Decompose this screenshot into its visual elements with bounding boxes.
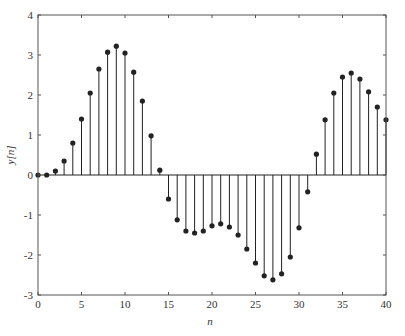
y-axis-ticks: -3-2-101234 [24, 9, 386, 301]
stem-marker [236, 232, 241, 237]
stem-marker [53, 168, 58, 173]
stem-marker [62, 158, 67, 163]
stem-marker [349, 70, 354, 75]
stem-marker [375, 104, 380, 109]
stem-marker [131, 70, 136, 75]
stem-marker [96, 66, 101, 71]
stem-marker [79, 116, 84, 121]
stem-marker [279, 271, 284, 276]
x-axis-ticks: 0510152025303540 [35, 15, 392, 310]
y-axis-label: y[n] [4, 146, 16, 166]
stem-marker [253, 260, 258, 265]
x-tick-label: 0 [35, 298, 41, 310]
stem-marker [183, 228, 188, 233]
stem-marker [201, 228, 206, 233]
x-tick-label: 5 [79, 298, 85, 310]
stem-marker [331, 90, 336, 95]
stem-marker [366, 89, 371, 94]
stem-marker [140, 98, 145, 103]
stem-marker [166, 196, 171, 201]
stem-marker [270, 277, 275, 282]
x-tick-label: 10 [120, 298, 132, 310]
stem-marker [244, 246, 249, 251]
stem-marker [296, 225, 301, 230]
stem-marker [218, 221, 223, 226]
stem-marker [357, 76, 362, 81]
stem-marker [149, 133, 154, 138]
stem-marker [314, 152, 319, 157]
stem-marker [175, 217, 180, 222]
stem-marker [340, 74, 345, 79]
x-tick-label: 20 [207, 298, 219, 310]
stem-series [35, 44, 388, 283]
stem-marker [323, 117, 328, 122]
x-tick-label: 30 [294, 298, 306, 310]
y-tick-label: 4 [28, 9, 34, 21]
stem-marker [157, 168, 162, 173]
stem-plot: 0510152025303540 -3-2-101234 n y[n] [0, 0, 405, 336]
x-tick-label: 15 [163, 298, 175, 310]
stem-marker [288, 254, 293, 259]
x-tick-label: 35 [337, 298, 349, 310]
stem-marker [70, 140, 75, 145]
y-tick-label: 0 [28, 169, 34, 181]
y-tick-label: 1 [28, 129, 34, 141]
y-tick-label: -2 [24, 249, 33, 261]
y-tick-label: 2 [28, 89, 34, 101]
y-tick-label: -3 [24, 289, 34, 301]
x-axis-label: n [207, 315, 213, 327]
stem-marker [88, 90, 93, 95]
stem-marker [192, 230, 197, 235]
stem-marker [114, 44, 119, 49]
stem-marker [262, 273, 267, 278]
x-tick-label: 40 [381, 298, 393, 310]
stem-marker [105, 50, 110, 55]
x-tick-label: 25 [250, 298, 262, 310]
y-tick-label: 3 [28, 49, 34, 61]
stem-marker [209, 223, 214, 228]
stem-marker [305, 189, 310, 194]
y-tick-label: -1 [24, 209, 33, 221]
stem-marker [227, 224, 232, 229]
stem-marker [122, 50, 127, 55]
